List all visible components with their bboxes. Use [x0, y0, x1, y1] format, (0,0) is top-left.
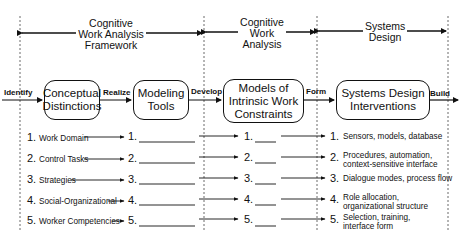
design-num: 3. [330, 173, 339, 184]
tool-num: 5. [128, 215, 137, 226]
row-arrows [71, 136, 325, 221]
design-num: 4. [330, 194, 339, 205]
design-dialogue: Dialogue modes, process flow [343, 174, 452, 183]
phase-label-systems-design: Systems Design [363, 21, 407, 43]
tool-num: 3. [128, 174, 137, 185]
verb-realize: Realize [103, 88, 131, 97]
verb-build: Build [430, 89, 450, 98]
model-num: 3. [244, 173, 253, 184]
box-systems-design-interventions: Systems Design Interventions [336, 80, 430, 120]
row-num: 5. [27, 215, 36, 226]
model-num: 5. [244, 214, 253, 225]
tool-num: 2. [128, 153, 137, 164]
row-num: 3. [27, 174, 36, 185]
design-num: 5. [330, 214, 339, 225]
row-num: 1. [27, 132, 36, 143]
design-procedures: Procedures, automation, context-sensitiv… [343, 151, 438, 169]
box-modeling-tools: Modeling Tools [133, 80, 189, 120]
model-num: 1. [244, 131, 253, 142]
tool-num: 1. [128, 131, 137, 142]
row-label-control-tasks: Control Tasks [39, 155, 88, 164]
design-num: 2. [330, 152, 339, 163]
row-label-strategies: Strategies [39, 176, 76, 185]
box-conceptual-distinctions: Conceptual Distinctions [44, 80, 100, 120]
blank-lines [139, 142, 276, 226]
row-num: 4. [27, 195, 36, 206]
design-sensors: Sensors, models, database [343, 132, 442, 141]
verb-identify: Identify [4, 88, 32, 97]
model-num: 4. [244, 194, 253, 205]
row-label-worker-competencies: Worker Competencies [39, 217, 120, 226]
box-models-intrinsic-constraints: Models of Intrinsic Work Constraints [223, 79, 304, 123]
row-num: 2. [27, 153, 36, 164]
design-num: 1. [330, 131, 339, 142]
design-role-allocation: Role allocation, organizational structur… [343, 193, 428, 211]
design-selection: Selection, training, interface form [343, 213, 410, 231]
model-num: 2. [244, 152, 253, 163]
verb-develop: Develop [191, 87, 222, 96]
row-label-work-domain: Work Domain [39, 134, 88, 143]
row-label-social-organizational: Social-Organizational [39, 197, 117, 206]
phase-label-framework: Cognitive Work Analysis Framework [76, 18, 146, 51]
tool-num: 4. [128, 195, 137, 206]
verb-form: Form [306, 87, 326, 96]
phase-label-cwa: Cognitive Work Analysis [238, 17, 286, 50]
